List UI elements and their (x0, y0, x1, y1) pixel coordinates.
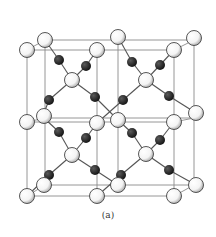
black-atom (155, 135, 165, 145)
white-atom (65, 148, 80, 163)
white-atom (20, 43, 35, 58)
white-atom (111, 178, 126, 193)
white-atom (38, 33, 53, 48)
figure-caption: (a) (0, 210, 216, 220)
white-atom (167, 115, 182, 130)
black-atom (81, 61, 91, 71)
white-atom (167, 43, 182, 58)
black-atom (44, 95, 54, 105)
white-atom (90, 189, 105, 204)
white-atom (37, 178, 52, 193)
black-atom (81, 133, 91, 143)
white-atom (167, 189, 182, 204)
white-atom (90, 43, 105, 58)
black-atom (90, 92, 100, 102)
black-atom (155, 60, 165, 70)
white-atom (189, 178, 204, 193)
black-atom (127, 57, 137, 67)
white-atom (111, 30, 126, 45)
white-atom (139, 73, 154, 88)
black-atom (118, 95, 128, 105)
white-atom (20, 189, 35, 204)
white-atom (37, 109, 52, 124)
black-atoms (44, 55, 174, 180)
black-atom (54, 55, 64, 65)
white-atom (90, 116, 105, 131)
white-atom (65, 73, 80, 88)
black-atom (127, 128, 137, 138)
crystal-lattice-diagram (0, 0, 216, 237)
white-atom (139, 147, 154, 162)
white-atom (20, 115, 35, 130)
white-atom (111, 113, 126, 128)
black-atom (54, 127, 64, 137)
white-atom (189, 106, 204, 121)
white-atom (187, 31, 202, 46)
black-atom (164, 91, 174, 101)
black-atom (90, 165, 100, 175)
black-atom (164, 165, 174, 175)
